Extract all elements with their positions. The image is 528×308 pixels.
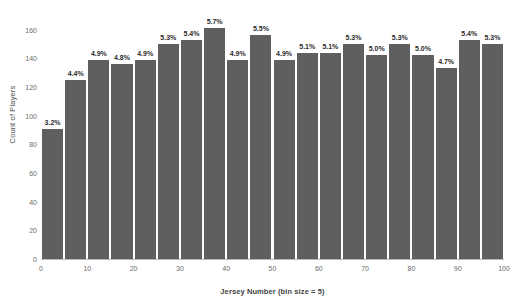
bar-value-label: 5.0% xyxy=(357,45,397,52)
x-tick-label: 0 xyxy=(21,265,61,272)
histogram-bar xyxy=(365,55,388,259)
histogram-bar xyxy=(481,44,504,259)
x-tick-label: 80 xyxy=(391,265,431,272)
histogram-bar xyxy=(157,44,180,259)
y-axis-tick-labels: 020406080100120140160 xyxy=(3,0,37,308)
y-tick-label: 0 xyxy=(7,256,37,263)
x-tick-label: 100 xyxy=(484,265,524,272)
histogram-bar xyxy=(249,35,272,259)
histogram-bar xyxy=(87,60,110,259)
histogram-bar xyxy=(342,44,365,259)
x-tick-label: 10 xyxy=(67,265,107,272)
x-tick-label: 90 xyxy=(438,265,478,272)
y-tick-label: 140 xyxy=(7,55,37,62)
bar-value-label: 4.4% xyxy=(56,70,96,77)
histogram-bar xyxy=(411,55,434,259)
bar-value-label: 5.7% xyxy=(195,18,235,25)
bar-value-label: 5.5% xyxy=(241,25,281,32)
histogram-bar xyxy=(435,68,458,259)
histogram-bar xyxy=(458,40,481,259)
y-tick-label: 20 xyxy=(7,227,37,234)
histogram-bar xyxy=(110,64,133,259)
histogram-chart: Count of Players 020406080100120140160 0… xyxy=(0,0,528,308)
y-tick-label: 160 xyxy=(7,26,37,33)
histogram-bar xyxy=(226,60,249,259)
histogram-bar xyxy=(273,60,296,259)
histogram-bar xyxy=(319,53,342,259)
x-tick-label: 50 xyxy=(253,265,293,272)
bar-value-label: 4.7% xyxy=(426,58,466,65)
bar-value-label: 3.2% xyxy=(33,119,73,126)
x-axis-tick-labels: 0102030405060708090100 xyxy=(0,265,528,281)
x-tick-label: 60 xyxy=(299,265,339,272)
histogram-bar xyxy=(41,129,64,259)
x-tick-label: 30 xyxy=(160,265,200,272)
y-tick-label: 120 xyxy=(7,83,37,90)
bar-value-label: 4.9% xyxy=(218,50,258,57)
bar-value-label: 5.1% xyxy=(310,43,350,50)
bar-value-label: 5.3% xyxy=(334,34,374,41)
y-tick-label: 60 xyxy=(7,169,37,176)
x-axis-line xyxy=(41,259,504,260)
histogram-bar xyxy=(296,53,319,259)
bar-value-label: 4.9% xyxy=(264,50,304,57)
histogram-bar xyxy=(388,44,411,259)
bar-value-label: 4.9% xyxy=(125,50,165,57)
y-tick-label: 80 xyxy=(7,141,37,148)
histogram-bar xyxy=(180,40,203,259)
bar-value-label: 5.3% xyxy=(472,34,512,41)
bar-value-label: 5.3% xyxy=(380,34,420,41)
histogram-bar xyxy=(203,28,226,259)
y-tick-label: 40 xyxy=(7,198,37,205)
x-axis-title: Jersey Number (bin size = 5) xyxy=(41,287,504,296)
histogram-bar xyxy=(134,60,157,259)
x-tick-label: 20 xyxy=(114,265,154,272)
bar-value-label: 5.0% xyxy=(403,45,443,52)
histogram-bar xyxy=(64,80,87,259)
x-tick-label: 70 xyxy=(345,265,385,272)
x-tick-label: 40 xyxy=(206,265,246,272)
bar-value-label: 5.4% xyxy=(171,30,211,37)
